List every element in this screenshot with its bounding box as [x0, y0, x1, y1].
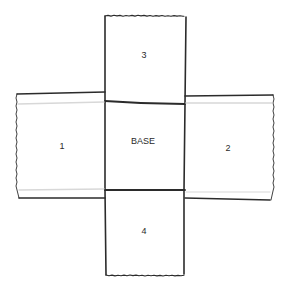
panel-4-label: 4: [141, 226, 146, 236]
panel-3-label: 3: [141, 50, 146, 60]
base-top-fold: [105, 101, 185, 104]
panel-1-label: 1: [59, 141, 64, 151]
base-label: BASE: [131, 136, 155, 146]
panel-2-label: 2: [225, 143, 230, 153]
base-right-edge: [184, 104, 185, 190]
